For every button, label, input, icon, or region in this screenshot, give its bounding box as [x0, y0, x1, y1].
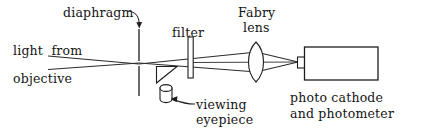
beam-splitter-prism [157, 67, 178, 84]
axis-ray-to-detector [193, 62, 298, 63]
label-viewing-eyepiece-line2: eyepiece [196, 112, 253, 127]
label-objective: objective [13, 71, 72, 86]
label-fabry-lens-line1: Fabry [238, 5, 275, 20]
optical-diagram-figure: diaphragm light from objective filter Fa… [0, 0, 422, 140]
label-diaphragm: diaphragm [63, 5, 134, 20]
fabry-lens [249, 42, 264, 82]
photo-cathode-photometer-box [305, 47, 379, 80]
label-photo-cathode-line1: photo cathode [290, 90, 383, 105]
diaphragm-leader-arrowhead [136, 22, 142, 29]
viewing-eyepiece-top-ellipse [160, 85, 172, 92]
filter-plate [188, 37, 193, 78]
lower-incoming-ray [48, 63, 139, 70]
label-photo-cathode-line2: and photometer [290, 106, 394, 121]
label-fabry-lens-line2: lens [243, 20, 270, 35]
label-filter: filter [172, 25, 204, 40]
label-viewing-eyepiece-line1: viewing [196, 97, 247, 112]
label-light-from: light from [13, 43, 82, 58]
